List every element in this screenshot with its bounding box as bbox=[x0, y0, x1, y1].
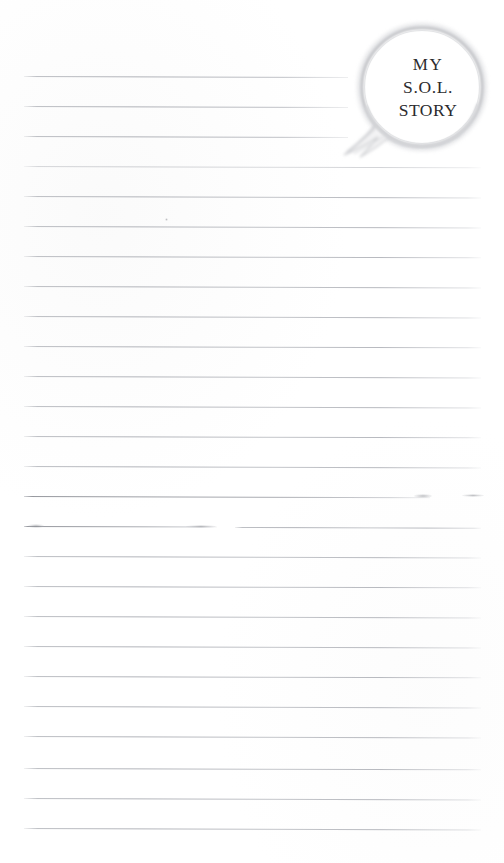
bubble-line-2: S.O.L. bbox=[366, 76, 490, 99]
ruled-line-27 bbox=[24, 828, 481, 831]
ruled-line-24 bbox=[24, 736, 481, 739]
ruled-line-9 bbox=[24, 316, 481, 319]
ruled-line-12 bbox=[24, 406, 481, 409]
ruled-line-7 bbox=[24, 256, 481, 258]
ruled-line-19 bbox=[24, 586, 481, 588]
ruled-line-3 bbox=[24, 136, 348, 138]
ruled-line-14 bbox=[24, 466, 481, 468]
ruled-line-25 bbox=[24, 768, 481, 770]
ruled-line-2 bbox=[24, 106, 348, 108]
ruled-line-16 bbox=[24, 526, 217, 528]
ruled-line-20 bbox=[24, 616, 481, 618]
lined-page: MY S.O.L. STORY bbox=[0, 0, 504, 863]
ruled-line-5 bbox=[24, 196, 481, 198]
ruled-line-1 bbox=[24, 76, 348, 78]
bubble-line-3: STORY bbox=[366, 99, 490, 122]
ruled-line-23 bbox=[24, 706, 481, 708]
speech-bubble: MY S.O.L. STORY bbox=[336, 18, 496, 168]
ruled-line-13 bbox=[24, 436, 481, 438]
ruled-line-10 bbox=[24, 346, 481, 348]
ruled-line-17 bbox=[235, 527, 481, 529]
ruled-line-15 bbox=[24, 496, 430, 498]
ruled-line-26 bbox=[24, 798, 481, 800]
ruled-line-6 bbox=[24, 226, 481, 229]
speech-bubble-text: MY S.O.L. STORY bbox=[366, 54, 490, 122]
ruled-line-21 bbox=[24, 646, 481, 649]
ruled-line-8 bbox=[24, 286, 481, 288]
bubble-line-1: MY bbox=[366, 54, 490, 76]
ruled-line-11 bbox=[24, 376, 481, 378]
ruled-line-22 bbox=[24, 676, 481, 678]
ruled-line-18 bbox=[24, 556, 481, 559]
